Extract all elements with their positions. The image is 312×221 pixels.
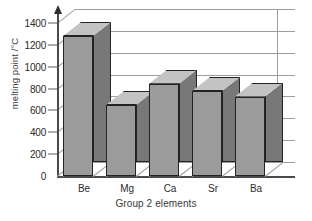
gridline-1400 — [75, 9, 295, 10]
x-tick-label-Mg: Mg — [120, 183, 134, 194]
y-tick-label-1400: 1400 — [10, 18, 46, 29]
x-tick-label-Ba: Ba — [250, 183, 262, 194]
y-tick-mark-1400 — [48, 23, 57, 24]
y-tick-mark-400 — [48, 132, 57, 133]
y-tick-mark-600 — [48, 110, 57, 111]
y-tick-label-400: 400 — [10, 127, 46, 138]
bar-side-face — [265, 83, 283, 162]
y-tick-label-1000: 1000 — [10, 61, 46, 72]
y-tick-label-800: 800 — [10, 83, 46, 94]
x-tick-label-Be: Be — [78, 183, 90, 194]
x-tick-label-Sr: Sr — [208, 183, 218, 194]
plot-area: BeMgCaSrBa — [0, 0, 312, 221]
y-axis-arrow-icon — [54, 5, 62, 14]
bar-front-face — [235, 97, 265, 176]
y-axis-tick-labels: 0200400600800100012001400 — [10, 0, 46, 221]
y-tick-mark-800 — [48, 88, 57, 89]
x-tick-label-Ca: Ca — [164, 183, 177, 194]
y-tick-mark-200 — [48, 154, 57, 155]
y-tick-label-600: 600 — [10, 105, 46, 116]
melting-point-bar-chart: melting point /°C BeMgCaSrBa 02004006008… — [0, 0, 312, 221]
x-axis-title: Group 2 elements — [0, 198, 312, 209]
bar-front-face — [192, 91, 222, 176]
y-tick-label-1200: 1200 — [10, 39, 46, 50]
y-tick-mark-1000 — [48, 66, 57, 67]
y-tick-mark-1200 — [48, 44, 57, 45]
floor-depth-line — [265, 162, 284, 177]
y-axis-line — [57, 13, 59, 176]
bar-front-face — [63, 36, 93, 176]
bar-front-face — [106, 105, 136, 176]
bar-front-face — [149, 84, 179, 176]
y-tick-label-200: 200 — [10, 149, 46, 160]
y-tick-label-0: 0 — [10, 171, 46, 182]
